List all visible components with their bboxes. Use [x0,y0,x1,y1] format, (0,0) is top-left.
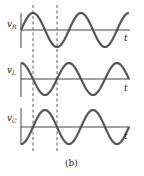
vr-t-label: t [124,33,128,43]
vc-t-label: t [124,131,128,141]
vr-label: vR [7,19,17,30]
figure-caption: (b) [65,158,78,168]
vl-label: vL [7,65,16,76]
panel-vr: vR t [7,13,130,48]
phasor-waveform-diagram: vR t vL t vC t (b) [0,0,144,176]
panel-vl: vL t [7,63,130,97]
vc-label: vC [7,113,17,124]
vl-t-label: t [124,83,128,93]
panel-vc: vC t [7,108,130,145]
